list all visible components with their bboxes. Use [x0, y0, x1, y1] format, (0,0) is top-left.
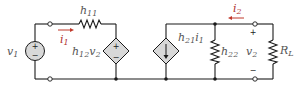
- current-arrow-i1-icon: [58, 28, 74, 32]
- junction-dot: [213, 77, 217, 81]
- label-h11: h11: [80, 4, 97, 18]
- current-arrow-i2-icon: [228, 16, 244, 20]
- svg-text:−: −: [113, 53, 120, 62]
- dependent-current-source-h21i1-icon: [153, 38, 179, 64]
- label-i1: i1: [60, 33, 69, 47]
- voltage-source-v1-icon: + −: [26, 42, 45, 61]
- v2-plus-sign: +: [250, 28, 257, 37]
- input-terminal-top: [48, 22, 52, 26]
- svg-text:−: −: [32, 51, 39, 60]
- output-terminal-top: [253, 22, 257, 26]
- input-terminal-bottom: [48, 77, 52, 81]
- junction-dot: [114, 77, 118, 81]
- circuit-diagram: + − v1 i1 h11 + − h12v2 h21i1: [0, 0, 303, 85]
- junction-dot: [164, 77, 168, 81]
- v2-minus-sign: −: [250, 66, 257, 75]
- label-v1: v1: [7, 45, 18, 59]
- resistor-h11-icon: [79, 20, 101, 28]
- junction-dot: [213, 22, 217, 26]
- svg-text:+: +: [113, 42, 120, 51]
- resistor-rl-icon: [269, 40, 277, 64]
- label-h22: h22: [221, 45, 238, 59]
- label-i2: i2: [233, 2, 242, 16]
- label-h21i1: h21i1: [178, 31, 204, 45]
- label-h12v2: h12v2: [72, 45, 101, 59]
- label-rl: RL: [279, 44, 294, 58]
- dependent-voltage-source-h12v2-icon: + −: [103, 38, 129, 64]
- resistor-h22-icon: [211, 40, 219, 64]
- output-terminal-bottom: [253, 77, 257, 81]
- label-v2: v2: [246, 45, 257, 59]
- svg-text:+: +: [32, 42, 39, 51]
